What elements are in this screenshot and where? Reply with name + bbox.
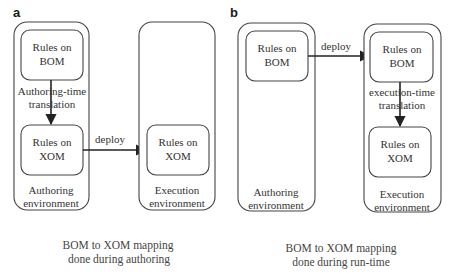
rules-on-bom-line1: Rules on bbox=[383, 43, 422, 55]
rules-on-bom-line1: Rules on bbox=[258, 42, 297, 54]
deploy-label-a: deploy bbox=[95, 133, 125, 145]
execution-environment-b: Rules on BOM execution-time translation … bbox=[364, 24, 441, 213]
execution-env-container bbox=[139, 22, 215, 210]
authoring-environment-b: Rules on BOM Authoring environment bbox=[238, 23, 315, 211]
rules-on-xom-line2: XOM bbox=[387, 152, 413, 164]
execution-env-title-line2: environment bbox=[149, 197, 205, 209]
rules-on-bom-line2: BOM bbox=[389, 57, 414, 69]
panel-b: b Rules on BOM Authoring environment dep… bbox=[230, 5, 441, 269]
caption-a-line2: done during authoring bbox=[68, 253, 170, 266]
rules-on-bom-line1: Rules on bbox=[33, 41, 72, 53]
rules-on-xom-line2: XOM bbox=[39, 150, 65, 162]
caption-a-line1: BOM to XOM mapping bbox=[63, 239, 174, 252]
deploy-label-b: deploy bbox=[321, 40, 351, 52]
translation-line2: translation bbox=[379, 99, 426, 111]
rules-on-xom-line1: Rules on bbox=[159, 136, 198, 148]
rules-on-xom-line1: Rules on bbox=[381, 138, 420, 150]
diagram: a Rules on BOM Authoring-time translatio… bbox=[0, 0, 452, 280]
translation-line1: Authoring-time bbox=[18, 85, 87, 97]
authoring-environment-a: Rules on BOM Authoring-time translation … bbox=[14, 22, 89, 210]
panel-label-b: b bbox=[230, 5, 238, 20]
authoring-env-title-line1: Authoring bbox=[253, 186, 299, 198]
translation-line1: execution-time bbox=[369, 86, 435, 98]
authoring-env-title-line2: environment bbox=[248, 199, 304, 211]
authoring-env-title-line2: environment bbox=[23, 197, 79, 209]
panel-label-a: a bbox=[13, 5, 21, 20]
rules-on-bom-line2: BOM bbox=[39, 55, 64, 67]
rules-on-xom-line2: XOM bbox=[165, 150, 191, 162]
panel-a: a Rules on BOM Authoring-time translatio… bbox=[13, 5, 215, 266]
rules-on-xom-line1: Rules on bbox=[33, 136, 72, 148]
execution-env-title-line2: environment bbox=[374, 201, 430, 213]
execution-env-title-line1: Execution bbox=[155, 184, 200, 196]
execution-environment-a: Rules on XOM Execution environment bbox=[139, 22, 215, 210]
execution-env-title-line1: Execution bbox=[380, 188, 425, 200]
translation-line2: translation bbox=[29, 98, 76, 110]
caption-b-line2: done during run-time bbox=[292, 256, 390, 269]
caption-b-line1: BOM to XOM mapping bbox=[286, 242, 397, 255]
rules-on-bom-line2: BOM bbox=[264, 56, 289, 68]
authoring-env-title-line1: Authoring bbox=[28, 184, 74, 196]
